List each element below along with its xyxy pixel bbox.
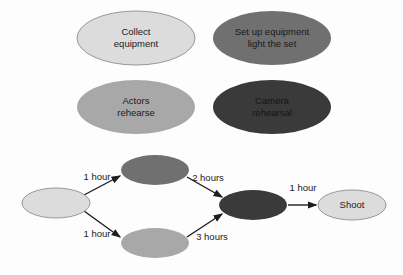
legend-node-camera-rehearsal[interactable]: Camerarehearsal xyxy=(213,80,331,134)
legend-node-actors-rehearse-label: Actors xyxy=(123,95,150,106)
network-node-shoot-label: Shoot xyxy=(340,199,365,210)
legend-node-set-up-equipment-label: Set up equipment xyxy=(235,26,310,37)
edge-actors-to-camera-label: 3 hours xyxy=(196,231,228,242)
diagram-canvas: CollectequipmentSet up equipmentlight th… xyxy=(0,0,403,275)
edge-start-to-setup-label: 1 hour xyxy=(84,171,111,182)
network-node-shoot[interactable]: Shoot xyxy=(318,190,386,220)
network-node-actors-task[interactable] xyxy=(121,228,189,258)
network-node-setup-task[interactable] xyxy=(121,155,189,185)
legend-node-actors-rehearse-label: rehearse xyxy=(117,107,155,118)
network-node-actors-task-shape xyxy=(121,228,189,258)
legend-node-set-up-equipment-label: light the set xyxy=(248,38,297,49)
edge-start-to-actors-label: 1 hour xyxy=(84,228,111,239)
network-node-camera-task[interactable] xyxy=(219,190,287,220)
legend-node-camera-rehearsal-label: rehearsal xyxy=(252,107,292,118)
network-node-camera-task-shape xyxy=(219,190,287,220)
legend-node-set-up-equipment[interactable]: Set up equipmentlight the set xyxy=(213,11,331,65)
network-node-start-shape xyxy=(22,188,90,218)
legend-node-camera-rehearsal-label: Camera xyxy=(255,95,290,106)
network-node-start[interactable] xyxy=(22,188,90,218)
edge-camera-to-shoot-label: 1 hour xyxy=(290,182,317,193)
edge-setup-to-camera-label: 2 hours xyxy=(192,172,224,183)
process-network-diagram: CollectequipmentSet up equipmentlight th… xyxy=(0,0,403,275)
legend-node-actors-rehearse[interactable]: Actorsrehearse xyxy=(77,80,195,134)
legend-node-collect-equipment-label: equipment xyxy=(114,38,159,49)
legend-node-collect-equipment[interactable]: Collectequipment xyxy=(77,11,195,65)
legend-node-collect-equipment-label: Collect xyxy=(121,26,150,37)
network-node-setup-task-shape xyxy=(121,155,189,185)
